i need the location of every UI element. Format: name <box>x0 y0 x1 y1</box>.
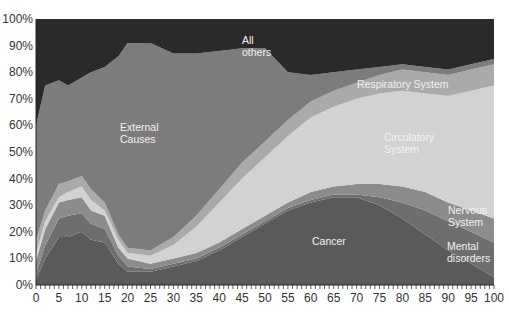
label-circulatory: Circulatory <box>384 131 435 143</box>
x-tick-label: 10 <box>75 291 89 305</box>
y-tick-label: 20% <box>9 225 33 239</box>
y-tick-label: 90% <box>9 39 33 53</box>
y-tick-label: 80% <box>9 65 33 79</box>
x-tick-label: 5 <box>56 291 63 305</box>
label-nervous-2: System <box>448 216 483 228</box>
x-tick-label: 70 <box>350 291 364 305</box>
x-tick-label: 90 <box>442 291 456 305</box>
y-tick-label: 50% <box>9 145 33 159</box>
x-tick-label: 80 <box>396 291 410 305</box>
x-tick-label: 65 <box>327 291 341 305</box>
x-tick-label: 20 <box>121 291 135 305</box>
x-axis: 0510152025303540455055606570758085909510… <box>33 285 505 305</box>
x-tick-label: 30 <box>167 291 181 305</box>
y-tick-label: 70% <box>9 92 33 106</box>
y-tick-label: 30% <box>9 198 33 212</box>
x-tick-label: 55 <box>281 291 295 305</box>
x-tick-label: 40 <box>213 291 227 305</box>
y-tick-label: 40% <box>9 172 33 186</box>
label-respiratory: Respiratory System <box>357 78 449 90</box>
label-mental-2: disorders <box>447 252 490 264</box>
x-tick-label: 60 <box>304 291 318 305</box>
x-tick-label: 15 <box>98 291 112 305</box>
x-tick-label: 25 <box>144 291 158 305</box>
label-mental: Mental <box>447 240 479 252</box>
label-circulatory-2: System <box>384 143 419 155</box>
y-tick-label: 60% <box>9 118 33 132</box>
x-tick-label: 45 <box>235 291 249 305</box>
label-cancer: Cancer <box>312 235 346 247</box>
x-tick-label: 0 <box>33 291 40 305</box>
x-tick-label: 75 <box>373 291 387 305</box>
label-all-others-2: others <box>242 46 271 58</box>
y-tick-label: 0% <box>16 278 34 292</box>
plot-areas <box>36 19 494 285</box>
stacked-area-chart: 0%10%20%30%40%50%60%70%80%90%100% 051015… <box>0 0 509 315</box>
x-tick-label: 50 <box>258 291 272 305</box>
y-axis: 0%10%20%30%40%50%60%70%80%90%100% <box>2 12 33 292</box>
label-nervous: Nervous <box>448 204 487 216</box>
x-tick-label: 95 <box>464 291 478 305</box>
label-external-causes: External <box>120 121 159 133</box>
label-external-causes-2: Causes <box>120 133 156 145</box>
y-tick-label: 10% <box>9 251 33 265</box>
x-tick-label: 100 <box>484 291 504 305</box>
x-tick-label: 35 <box>190 291 204 305</box>
y-tick-label: 100% <box>2 12 33 26</box>
label-all-others: All <box>242 34 254 46</box>
x-tick-label: 85 <box>419 291 433 305</box>
